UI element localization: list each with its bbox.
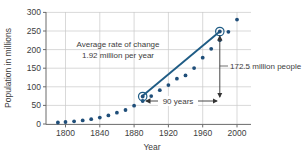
data-point-1870	[124, 108, 128, 112]
ytick-label-50: 50	[32, 100, 42, 110]
x-axis-title: Year	[143, 142, 160, 152]
x-tick-labels: 1800 1840 1880 1920 1960 2000	[56, 128, 247, 138]
rate-of-change-line1: Average rate of change	[76, 40, 160, 49]
y-axis-title: Population in millions	[3, 28, 13, 108]
data-point-1950	[192, 66, 196, 70]
data-point-1830	[89, 117, 93, 121]
data-point-1860	[115, 111, 119, 115]
xtick-label-1880: 1880	[125, 128, 144, 138]
secant-start-point	[141, 95, 145, 99]
data-point-1970	[209, 47, 213, 51]
data-point-1790	[56, 121, 60, 125]
rise-label: 172.5 million people	[230, 62, 302, 71]
ytick-label-250: 250	[27, 26, 41, 36]
ytick-label-300: 300	[27, 7, 41, 17]
data-point-1850	[107, 114, 111, 118]
xtick-label-1960: 1960	[193, 128, 212, 138]
data-point-1880	[132, 104, 136, 108]
data-point-2000	[235, 18, 239, 22]
xtick-label-2000: 2000	[228, 128, 247, 138]
rate-of-change-line2: 1.92 million per year	[82, 51, 154, 60]
data-point-1900	[149, 94, 153, 98]
secant-end-point	[218, 30, 222, 34]
ytick-label-150: 150	[27, 63, 41, 73]
data-point-1960	[201, 56, 205, 60]
ytick-label-200: 200	[27, 45, 41, 55]
data-point-1810	[72, 119, 76, 123]
population-scatter-chart: 300 250 200 150 100 50 0 1800 1840 1880 …	[0, 0, 307, 154]
data-point-1910	[158, 88, 162, 92]
ytick-label-100: 100	[27, 82, 41, 92]
run-label: 90 years	[163, 97, 194, 106]
xtick-label-1800: 1800	[56, 128, 75, 138]
y-tick-labels: 300 250 200 150 100 50 0	[27, 7, 41, 129]
data-point-1820	[81, 119, 85, 123]
data-point-1840	[98, 116, 102, 120]
data-point-1930	[175, 77, 179, 81]
xtick-label-1840: 1840	[90, 128, 109, 138]
ytick-label-0: 0	[36, 119, 41, 129]
data-point-1940	[184, 74, 188, 78]
xtick-label-1920: 1920	[159, 128, 178, 138]
data-point-1800	[64, 120, 68, 124]
data-point-1990	[227, 30, 231, 34]
chart-figure: 300 250 200 150 100 50 0 1800 1840 1880 …	[0, 0, 307, 154]
data-point-1920	[167, 83, 171, 87]
